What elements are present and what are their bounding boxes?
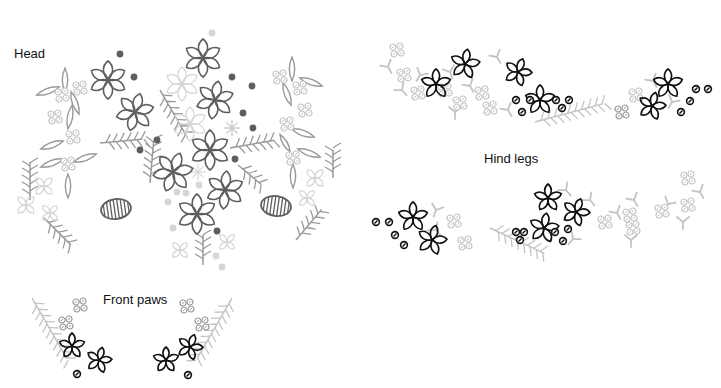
- knot-cluster-icon: [475, 86, 489, 100]
- lazy-daisy-flower-icon: [153, 347, 180, 372]
- french-knot-icon: [565, 226, 572, 233]
- french-knot-icon: [165, 199, 170, 204]
- french-knot-icon: [74, 371, 81, 378]
- french-knot-icon: [386, 219, 393, 226]
- knot-cluster-icon: [655, 204, 669, 218]
- detached-chain-flower-icon: [218, 233, 236, 251]
- french-knot-icon: [183, 190, 188, 195]
- knot-cluster-icon: [623, 208, 637, 222]
- lazy-daisy-flower-icon: [177, 194, 216, 234]
- french-knot-icon: [527, 97, 534, 104]
- lazy-daisy-flower-icon: [526, 211, 561, 245]
- lazy-daisy-flower-icon: [190, 130, 229, 170]
- leaf-stitch-icon: [40, 156, 64, 169]
- fly-stitch-icon: [411, 68, 427, 84]
- french-knot-icon: [693, 86, 700, 93]
- french-knot-icon: [196, 182, 201, 187]
- french-knot-icon: [154, 137, 159, 142]
- fly-stitch-icon: [582, 192, 599, 209]
- knot-cluster-icon: [73, 81, 87, 95]
- french-knot-icon: [392, 232, 399, 239]
- french-knot-icon: [249, 83, 254, 88]
- leaf-stitch-icon: [297, 146, 321, 159]
- fly-stitch-icon: [489, 50, 505, 66]
- knot-cluster-icon: [615, 105, 629, 119]
- french-knot-icon: [137, 147, 142, 152]
- french-knot-icon: [117, 51, 122, 56]
- leaf-stitch-icon: [289, 57, 294, 81]
- french-knot-icon: [559, 105, 566, 112]
- knot-cluster-icon: [458, 236, 472, 250]
- fern-sprig-icon: [229, 132, 280, 156]
- french-knot-icon: [521, 229, 528, 236]
- knot-cluster-icon: [626, 221, 640, 235]
- lazy-daisy-flower-icon: [534, 184, 563, 211]
- french-knot-icon: [185, 372, 192, 379]
- knot-cluster-icon: [55, 88, 69, 102]
- french-knot-icon: [553, 97, 560, 104]
- label-head: Head: [14, 46, 45, 61]
- lazy-daisy-flower-icon: [500, 54, 536, 89]
- knot-cluster-icon: [411, 86, 425, 100]
- leaf-stitch-icon: [280, 82, 293, 106]
- detached-chain-flower-icon: [305, 168, 325, 188]
- fly-stitch-icon: [663, 95, 679, 111]
- knot-cluster-icon: [681, 198, 695, 212]
- detached-chain-flower-icon: [298, 189, 316, 207]
- detached-chain-flower-icon: [171, 241, 189, 259]
- french-knot-icon: [229, 74, 234, 79]
- fern-sprig-icon: [290, 203, 329, 245]
- lazy-daisy-flower-icon: [205, 169, 246, 210]
- detached-chain-flower-icon: [16, 195, 36, 215]
- star-stitch-icon: [224, 120, 240, 136]
- fern-sprig-icon: [325, 143, 341, 178]
- detached-chain-flower-icon: [41, 204, 59, 222]
- lazy-daisy-flower-icon: [398, 202, 429, 231]
- knot-cluster-icon: [397, 68, 411, 82]
- french-knot-icon: [513, 97, 520, 104]
- fly-stitch-icon: [626, 193, 642, 209]
- knot-cluster-icon: [298, 103, 312, 117]
- lazy-daisy-flower-icon: [173, 330, 207, 363]
- french-knot-icon: [174, 189, 179, 194]
- french-knot-icon: [250, 125, 255, 130]
- knot-cluster-icon: [681, 171, 695, 185]
- fly-stitch-icon: [625, 235, 637, 247]
- lazy-daisy-flower-icon: [83, 344, 115, 375]
- french-knot-icon: [131, 74, 136, 79]
- fly-stitch-icon: [428, 203, 443, 218]
- french-knot-icon: [209, 30, 214, 35]
- fly-stitch-icon: [380, 60, 396, 76]
- knot-cluster-icon: [286, 151, 300, 165]
- fern-sprig-icon: [153, 86, 195, 142]
- french-knot-icon: [170, 225, 175, 230]
- lazy-daisy-flower-icon: [89, 61, 126, 99]
- lazy-daisy-flower-icon: [148, 146, 199, 197]
- lazy-daisy-flower-icon: [112, 89, 158, 135]
- french-knot-icon: [705, 86, 712, 93]
- knot-cluster-icon: [447, 214, 461, 228]
- french-knot-icon: [519, 109, 526, 116]
- fly-stitch-icon: [394, 82, 411, 99]
- fly-stitch-icon: [645, 74, 661, 90]
- french-knot-icon: [373, 219, 380, 226]
- knot-cluster-icon: [280, 117, 294, 131]
- french-knot-icon: [214, 228, 219, 233]
- fly-stitch-icon: [677, 217, 689, 229]
- satin-oval-icon: [100, 197, 132, 221]
- french-knot-icon: [678, 109, 685, 116]
- lazy-daisy-flower-icon: [193, 78, 236, 122]
- star-stitch-icon: [190, 164, 206, 180]
- french-knot-icon: [513, 229, 520, 236]
- knot-cluster-icon: [483, 101, 497, 115]
- knot-cluster-icon: [598, 215, 612, 229]
- knot-cluster-icon: [180, 299, 194, 313]
- fly-stitch-icon: [558, 182, 575, 199]
- knot-cluster-icon: [453, 96, 467, 110]
- french-knot-icon: [552, 229, 559, 236]
- lazy-daisy-flower-icon: [184, 39, 221, 77]
- fern-sprig-icon: [38, 212, 79, 253]
- french-knot-icon: [219, 264, 224, 269]
- french-knot-icon: [687, 98, 694, 105]
- lazy-daisy-flower-icon: [59, 333, 86, 358]
